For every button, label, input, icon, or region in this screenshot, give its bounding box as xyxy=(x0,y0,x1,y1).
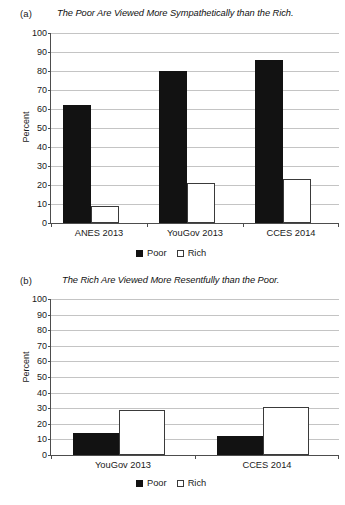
y-tick-label: 20 xyxy=(37,180,47,190)
y-tick-label: 60 xyxy=(37,104,47,114)
bar-poor-yougov-2013 xyxy=(159,71,187,223)
panel-b-legend: Poor Rich xyxy=(136,478,206,488)
y-tick-mark xyxy=(48,204,51,205)
y-tick-label: 50 xyxy=(37,123,47,133)
y-tick-mark xyxy=(48,185,51,186)
x-tick-label: YouGov 2013 xyxy=(167,228,223,238)
x-tick-mark xyxy=(338,223,339,227)
panel-a-tag: (a) xyxy=(20,8,32,19)
y-tick-label: 40 xyxy=(37,388,47,398)
x-tick-label: CCES 2014 xyxy=(242,460,291,470)
gridline xyxy=(51,166,339,167)
bar-rich-yougov-2013 xyxy=(119,410,165,455)
y-tick-label: 0 xyxy=(42,450,47,460)
gridline xyxy=(51,223,339,224)
bar-rich-yougov-2013 xyxy=(187,183,215,223)
poor-swatch-icon xyxy=(136,250,143,257)
gridline xyxy=(51,147,339,148)
y-tick-label: 90 xyxy=(37,310,47,320)
gridline xyxy=(51,71,339,72)
legend-entry-rich: Rich xyxy=(177,478,207,488)
panel-b-plot-area: 0102030405060708090100YouGov 2013CCES 20… xyxy=(50,299,339,456)
panel-a: (a) The Poor Are Viewed More Sympathetic… xyxy=(0,0,345,262)
gridline xyxy=(51,33,339,34)
y-tick-mark xyxy=(48,439,51,440)
y-tick-mark xyxy=(48,52,51,53)
rich-swatch-icon xyxy=(177,480,184,487)
x-tick-mark xyxy=(51,455,52,459)
bar-rich-cces-2014 xyxy=(283,179,311,223)
x-tick-mark xyxy=(51,223,52,227)
x-tick-mark xyxy=(338,455,339,459)
y-tick-label: 70 xyxy=(37,85,47,95)
x-tick-label: YouGov 2013 xyxy=(95,460,151,470)
y-tick-label: 0 xyxy=(42,218,47,228)
y-tick-label: 100 xyxy=(32,28,47,38)
y-tick-mark xyxy=(48,393,51,394)
y-tick-mark xyxy=(48,315,51,316)
gridline xyxy=(51,109,339,110)
gridline xyxy=(51,393,339,394)
x-tick-mark xyxy=(243,223,244,227)
y-tick-mark xyxy=(48,147,51,148)
bar-poor-yougov-2013 xyxy=(73,433,119,455)
panel-b-plot: 0102030405060708090100YouGov 2013CCES 20… xyxy=(50,299,339,456)
y-tick-mark xyxy=(48,346,51,347)
bar-poor-anes-2013 xyxy=(63,105,91,223)
x-tick-label: CCES 2014 xyxy=(266,228,315,238)
y-tick-mark xyxy=(48,377,51,378)
y-tick-label: 20 xyxy=(37,419,47,429)
y-tick-label: 90 xyxy=(37,47,47,57)
y-tick-mark xyxy=(48,299,51,300)
y-tick-label: 70 xyxy=(37,341,47,351)
y-tick-mark xyxy=(48,166,51,167)
y-tick-mark xyxy=(48,128,51,129)
y-tick-label: 10 xyxy=(37,434,47,444)
panel-b-y-axis-title: Percent xyxy=(21,337,31,397)
y-tick-mark xyxy=(48,33,51,34)
y-tick-label: 60 xyxy=(37,356,47,366)
rich-swatch-icon xyxy=(177,250,184,257)
bar-rich-cces-2014 xyxy=(263,407,309,455)
legend-entry-rich: Rich xyxy=(177,248,207,258)
y-tick-mark xyxy=(48,424,51,425)
panel-a-plot-area: 0102030405060708090100ANES 2013YouGov 20… xyxy=(50,33,339,224)
x-tick-mark xyxy=(147,223,148,227)
bar-poor-cces-2014 xyxy=(255,60,283,223)
poor-swatch-icon xyxy=(136,480,143,487)
gridline xyxy=(51,315,339,316)
legend-label-rich: Rich xyxy=(188,248,207,258)
y-tick-label: 80 xyxy=(37,66,47,76)
panel-a-legend: Poor Rich xyxy=(136,248,206,258)
gridline xyxy=(51,330,339,331)
y-tick-mark xyxy=(48,71,51,72)
x-tick-mark xyxy=(195,455,196,459)
gridline xyxy=(51,299,339,300)
panel-b-tag: (b) xyxy=(20,275,32,286)
bar-poor-cces-2014 xyxy=(217,436,263,455)
legend-label-rich: Rich xyxy=(188,478,207,488)
y-tick-mark xyxy=(48,109,51,110)
y-tick-mark xyxy=(48,361,51,362)
y-tick-label: 100 xyxy=(32,294,47,304)
panel-a-y-axis-title: Percent xyxy=(21,97,31,157)
gridline xyxy=(51,90,339,91)
y-tick-label: 30 xyxy=(37,403,47,413)
y-tick-label: 40 xyxy=(37,142,47,152)
legend-label-poor: Poor xyxy=(147,248,167,258)
gridline xyxy=(51,346,339,347)
bar-rich-anes-2013 xyxy=(91,206,119,223)
y-tick-label: 30 xyxy=(37,161,47,171)
y-tick-mark xyxy=(48,330,51,331)
panel-b-title: The Rich Are Viewed More Resentfully tha… xyxy=(62,275,279,285)
panel-a-title: The Poor Are Viewed More Sympathetically… xyxy=(57,8,294,18)
y-tick-mark xyxy=(48,90,51,91)
legend-entry-poor: Poor xyxy=(136,478,167,488)
gridline xyxy=(51,52,339,53)
gridline xyxy=(51,361,339,362)
gridline xyxy=(51,128,339,129)
y-tick-mark xyxy=(48,408,51,409)
gridline xyxy=(51,377,339,378)
legend-entry-poor: Poor xyxy=(136,248,167,258)
panel-a-plot: 0102030405060708090100ANES 2013YouGov 20… xyxy=(50,33,339,224)
